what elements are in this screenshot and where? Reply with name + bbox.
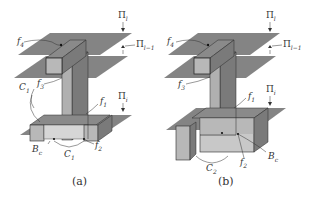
label-f3: f3 [37, 79, 44, 90]
label-f2: f2 [240, 158, 247, 169]
panel-a: Πl Πl−1 Πi f4 f3 f1 f2 C1 Bc C1 (a) [0, 0, 156, 204]
diagram-b [156, 0, 312, 204]
label-pi-l-minus-1: Πl−1 [283, 40, 302, 51]
label-pi-l: Πl [266, 11, 276, 22]
caption-a: (a) [72, 176, 87, 187]
label-pi-i: Πi [118, 92, 128, 103]
label-pi-l-minus-1: Πl−1 [136, 40, 155, 51]
label-bc: Bc [32, 145, 42, 156]
diagram-a [0, 0, 156, 204]
label-f4: f4 [167, 37, 174, 48]
label-c1: C1 [64, 150, 75, 161]
label-pi-l: Πl [118, 11, 128, 22]
label-f3: f3 [178, 80, 185, 91]
label-bc: Bc [268, 152, 278, 163]
label-f4: f4 [17, 37, 24, 48]
label-f2: f2 [95, 141, 102, 152]
label-c1-prime: C1 [19, 83, 30, 94]
label-f1: f1 [100, 97, 107, 108]
label-c2: C2 [206, 164, 217, 175]
label-pi-i: Πi [266, 85, 276, 96]
label-f1: f1 [248, 92, 255, 103]
caption-b: (b) [218, 176, 234, 187]
panel-b: Πl Πl−1 Πi f4 f3 f1 f2 Bc C2 (b) [156, 0, 312, 204]
